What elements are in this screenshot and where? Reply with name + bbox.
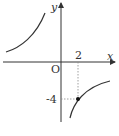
hyperbola-branch-upper-left bbox=[6, 13, 45, 52]
x-tick-label: 2 bbox=[75, 49, 82, 62]
y-axis-label: y bbox=[50, 1, 58, 14]
graph-canvas: y x O 2 -4 bbox=[0, 0, 119, 136]
x-axis-label: x bbox=[107, 50, 114, 63]
origin-label: O bbox=[51, 63, 60, 76]
marked-point bbox=[76, 97, 80, 101]
y-tick-label: -4 bbox=[46, 93, 57, 106]
hyperbola-branch-lower-right bbox=[70, 81, 110, 118]
